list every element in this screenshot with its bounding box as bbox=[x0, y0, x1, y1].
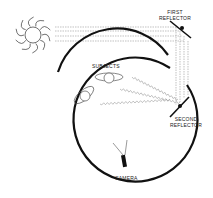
sun-flame bbox=[21, 20, 25, 30]
diagram-canvas bbox=[0, 0, 213, 198]
subject-1 bbox=[95, 73, 123, 83]
light-rays-vertical bbox=[176, 27, 188, 105]
sun-flame bbox=[42, 34, 50, 41]
sun-flame bbox=[40, 27, 50, 31]
camera bbox=[113, 140, 127, 167]
sun-flame bbox=[16, 29, 24, 36]
first-reflector bbox=[170, 21, 191, 38]
second-reflector-label-line2: REFLECTOR bbox=[170, 122, 202, 128]
sun-flame bbox=[40, 40, 44, 50]
sun-flame bbox=[32, 44, 37, 53]
first-reflector-label: FIRST REFLECTOR bbox=[159, 9, 191, 21]
second-reflector-label: SECOND REFLECTOR bbox=[170, 116, 202, 128]
sun-flame bbox=[16, 40, 26, 44]
sun-flame bbox=[28, 17, 33, 26]
first-reflector-label-line2: REFLECTOR bbox=[159, 15, 191, 21]
sun-flame bbox=[36, 20, 44, 26]
sun-flame bbox=[22, 44, 30, 50]
subjects-label: SUBJECTS bbox=[92, 63, 120, 69]
sun-icon bbox=[16, 17, 51, 53]
second-reflector bbox=[170, 97, 189, 117]
camera-label: CAMERA bbox=[115, 175, 138, 181]
